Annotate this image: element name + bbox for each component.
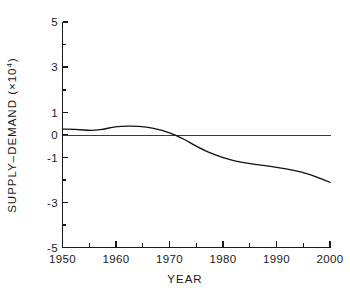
y-tick-label: 1 — [51, 107, 58, 119]
y-tick-label: 0 — [51, 129, 58, 141]
x-axis-minor-ticks — [89, 243, 303, 248]
x-tick-label: 1970 — [156, 253, 183, 265]
x-tick-label: 1990 — [263, 253, 290, 265]
x-tick-label: 1950 — [49, 253, 76, 265]
y-axis-tick-labels: 5 3 1 0 -1 -3 -5 — [47, 16, 58, 254]
chart-container: 5 3 1 0 -1 -3 -5 1950 1960 1970 1980 199… — [0, 0, 350, 293]
x-tick-label: 2000 — [316, 253, 343, 265]
y-axis-title-close: ) — [6, 57, 18, 62]
y-tick-label: -3 — [47, 197, 58, 209]
y-axis-title: SUPPLY–DEMAND (×104) — [5, 57, 18, 213]
x-axis-title: YEAR — [167, 273, 202, 285]
y-tick-label: 3 — [51, 61, 58, 73]
x-tick-label: 1980 — [209, 253, 236, 265]
x-tick-label: 1960 — [102, 253, 129, 265]
y-axis-title-group: SUPPLY–DEMAND (×104) — [5, 57, 18, 213]
y-tick-label: -1 — [47, 152, 58, 164]
y-tick-label: -5 — [47, 242, 58, 254]
y-tick-label: 5 — [51, 16, 58, 28]
y-axis-title-main: SUPPLY–DEMAND (×10 — [6, 68, 18, 213]
x-axis-tick-labels: 1950 1960 1970 1980 1990 2000 — [49, 253, 344, 265]
supply-demand-line-chart: 5 3 1 0 -1 -3 -5 1950 1960 1970 1980 199… — [0, 0, 350, 293]
